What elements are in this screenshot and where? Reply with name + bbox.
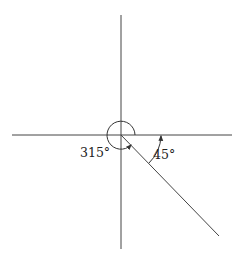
angle-diagram: 315° 45°	[0, 0, 244, 259]
acute-angle-label: 45°	[153, 147, 175, 162]
reflex-angle-label: 315°	[80, 145, 110, 160]
